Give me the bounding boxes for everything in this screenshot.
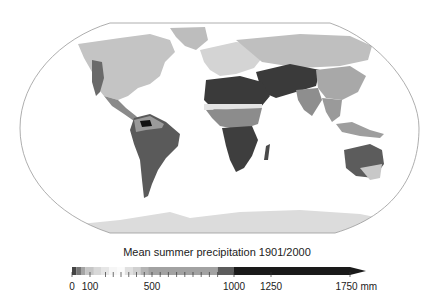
region-east-asia	[316, 66, 366, 100]
region-africa-central	[206, 108, 262, 130]
tick-label: 0	[69, 281, 75, 292]
region-madagascar	[264, 144, 270, 160]
region-amazon-core	[140, 120, 152, 127]
legend: Mean summer precipitation 1901/2000 0100…	[0, 245, 434, 304]
tick-label: 1000	[223, 281, 245, 292]
region-indonesia	[336, 122, 384, 138]
region-india	[296, 88, 322, 116]
world-precipitation-map	[0, 0, 434, 245]
colorbar-bin	[218, 267, 234, 275]
region-greenland	[170, 27, 208, 50]
colorbar-bin	[94, 267, 102, 275]
region-south-east-asia	[322, 98, 342, 122]
colorbar-bin-arrow	[234, 267, 366, 275]
tick-label: 1750 mm	[335, 281, 377, 292]
region-central-america	[104, 96, 140, 121]
region-antarctica	[60, 210, 400, 240]
tick-label: 100	[82, 281, 99, 292]
region-africa-south	[222, 126, 258, 172]
unit-label: mm	[358, 281, 377, 292]
tick-label: 1250	[260, 281, 282, 292]
colorbar-bin	[72, 267, 77, 275]
colorbar-bin	[77, 267, 82, 275]
colorbar-bin	[81, 267, 86, 275]
colorbar-bin	[148, 267, 217, 275]
colorbar	[0, 245, 434, 304]
tick-label: 500	[144, 281, 161, 292]
